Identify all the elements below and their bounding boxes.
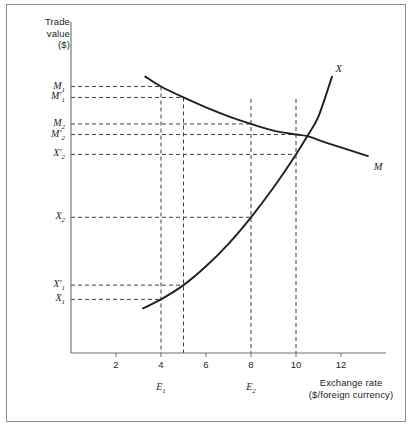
x-tick-label: 6 [196, 359, 216, 370]
x-tick-label: 2 [106, 359, 126, 370]
y-value-label-m1-prime: M′1 [31, 90, 65, 104]
y-value-label-x2-prime: X′2 [31, 147, 65, 161]
y-value-label-m2-prime: M′2 [31, 128, 65, 142]
y-value-label-x1: X1 [31, 292, 65, 306]
curve-label-imports: M [374, 161, 383, 172]
x-tick-label: 12 [331, 359, 351, 370]
x-tick-label: 10 [286, 359, 306, 370]
exports-curve-x [143, 77, 332, 309]
x-axis-ticks-group [116, 353, 341, 357]
x-tick-label: 8 [241, 359, 261, 370]
drop-lines-group [161, 87, 296, 353]
x-value-label-e2: E2 [241, 381, 261, 395]
x-tick-label: 4 [151, 359, 171, 370]
y-value-label-x1-prime: X′1 [31, 278, 65, 292]
imports-curve-m [145, 77, 368, 156]
x-value-label-e1: E1 [151, 381, 171, 395]
figure-container: Trade value ($) Exchange rate ($/foreign… [0, 0, 414, 428]
curve-label-exports: X [335, 63, 341, 74]
y-value-label-x2: X2 [31, 210, 65, 224]
